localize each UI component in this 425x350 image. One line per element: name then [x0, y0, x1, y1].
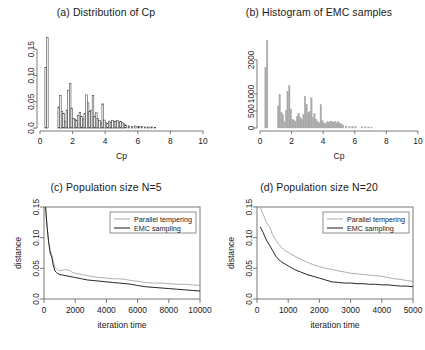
x-tick-label: 2 — [70, 136, 75, 146]
x-axis-label: Cp — [334, 151, 345, 161]
y-tick-label: 0.15 — [244, 199, 254, 216]
y-tick-label: 0.05 — [31, 260, 41, 277]
x-tick-label: 0 — [42, 305, 47, 315]
legend-label-emc-sampling: EMC sampling — [347, 224, 394, 233]
panel-b-histogram: (b) Histogram of EMC samples 05001000200… — [213, 0, 425, 175]
x-tick-label: 1000 — [279, 305, 298, 315]
panel-c-population-5: (c) Population size N=5 0.00.050.100.150… — [0, 175, 212, 350]
x-tick-label: 0 — [255, 305, 260, 315]
histogram-bars — [265, 40, 372, 128]
figure-container: (a) Distribution of Cp 0.00.050.100.1502… — [0, 0, 425, 350]
y-tick-label: 0.05 — [26, 93, 36, 110]
panel-d-population-20: (d) Population size N=20 0.00.050.100.15… — [213, 175, 425, 350]
x-tick-label: 2 — [289, 136, 294, 146]
y-tick-label: 0.10 — [26, 67, 36, 84]
x-axis-label: Cp — [116, 151, 127, 161]
y-tick-label: 0.10 — [31, 229, 41, 246]
x-tick-label: 0 — [258, 136, 263, 146]
x-tick-label: 8 — [168, 136, 173, 146]
x-tick-label: 8 — [384, 136, 389, 146]
y-tick-label: 0.0 — [31, 293, 41, 305]
x-tick-label: 5000 — [404, 305, 423, 315]
x-tick-label: 4000 — [372, 305, 391, 315]
x-axis-label: iteration time — [97, 320, 146, 330]
x-tick-label: 4000 — [97, 305, 116, 315]
x-tick-label: 10 — [413, 136, 423, 146]
y-tick-label: 0.10 — [244, 229, 254, 246]
panel-d-plot: 0.00.050.100.15010002000300040005000iter… — [213, 175, 425, 350]
legend-label-parallel-tempering: Parallel tempering — [347, 215, 405, 224]
histogram-bars — [45, 38, 156, 128]
x-tick-label: 10 — [198, 136, 208, 146]
legend-label-emc-sampling: EMC sampling — [134, 224, 181, 233]
x-tick-label: 10000 — [188, 305, 212, 315]
x-tick-label: 4 — [103, 136, 108, 146]
legend-label-parallel-tempering: Parallel tempering — [134, 215, 192, 224]
y-tick-label: 0.0 — [26, 122, 36, 134]
x-tick-label: 4 — [321, 136, 326, 146]
x-tick-label: 6000 — [128, 305, 147, 315]
panel-c-plot: 0.00.050.100.150200040006000800010000ite… — [0, 175, 212, 350]
x-tick-label: 2000 — [66, 305, 85, 315]
x-tick-label: 8000 — [159, 305, 178, 315]
y-tick-label: 0 — [246, 125, 256, 130]
y-axis-label: distance — [13, 237, 23, 269]
y-tick-label: 0.0 — [244, 293, 254, 305]
y-tick-label: 0.05 — [244, 260, 254, 277]
y-axis-label: distance — [226, 237, 236, 269]
x-tick-label: 6 — [352, 136, 357, 146]
y-tick-label: 0.15 — [26, 41, 36, 58]
x-tick-label: 6 — [135, 136, 140, 146]
y-tick-label: 500 — [246, 104, 256, 118]
y-tick-label: 1000 — [246, 84, 256, 103]
x-axis-label: iteration time — [310, 320, 359, 330]
x-tick-label: 2000 — [310, 305, 329, 315]
x-tick-label: 0 — [38, 136, 43, 146]
y-tick-label: 2000 — [246, 50, 256, 69]
panel-a-distribution: (a) Distribution of Cp 0.00.050.100.1502… — [0, 0, 212, 175]
x-tick-label: 3000 — [341, 305, 360, 315]
panel-b-plot: 0500100020000246810Cp — [213, 0, 425, 175]
y-tick-label: 0.15 — [31, 199, 41, 216]
panel-a-plot: 0.00.050.100.150246810Cp — [0, 0, 212, 175]
